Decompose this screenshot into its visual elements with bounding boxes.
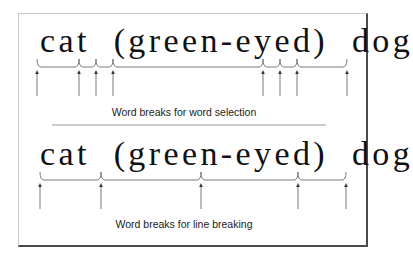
arrow-up-icon — [295, 70, 299, 74]
arrow-up-icon — [344, 183, 348, 187]
arrow-up-icon — [94, 70, 98, 74]
arrow-up-icon — [261, 70, 265, 74]
brace-segment — [263, 59, 280, 67]
arrow-up-icon — [77, 70, 81, 74]
arrow-up-icon — [111, 70, 115, 74]
arrow-up-icon — [38, 183, 42, 187]
arrow-up-icon — [345, 70, 349, 74]
brace-segment — [40, 172, 101, 180]
brace-segment — [297, 59, 347, 67]
arrow-up-icon — [35, 70, 39, 74]
brace-segment — [101, 172, 201, 180]
brace-segment — [96, 59, 113, 67]
arrow-up-icon — [99, 183, 103, 187]
brace-segment — [280, 59, 297, 67]
brace-segment — [37, 59, 79, 67]
brace-segment — [298, 172, 346, 180]
arrow-up-icon — [278, 70, 282, 74]
arrow-up-icon — [199, 183, 203, 187]
brace-segment — [113, 59, 263, 67]
arrow-up-icon — [296, 183, 300, 187]
brace-segment — [201, 172, 298, 180]
brace-segment — [79, 59, 96, 67]
